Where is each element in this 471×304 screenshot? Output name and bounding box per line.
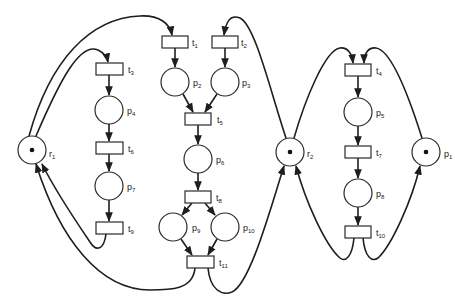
transition-t11[interactable]: t11 xyxy=(187,256,228,269)
arc-t8-p9 xyxy=(182,203,192,215)
place-label-p6: p6 xyxy=(216,155,225,166)
transition-label-t3: t3 xyxy=(128,65,135,76)
place-r1[interactable]: r1 xyxy=(18,136,56,164)
arc-r1-t3 xyxy=(36,49,108,136)
arc-p2-t5 xyxy=(183,94,193,112)
transition-label-t7: t7 xyxy=(376,148,383,159)
place-r2[interactable]: r2 xyxy=(276,138,314,166)
transition-t6[interactable]: t6 xyxy=(96,142,135,155)
token-icon xyxy=(30,148,35,153)
place-p5[interactable]: p5 xyxy=(344,98,385,126)
transition-label-t2: t2 xyxy=(241,38,248,49)
place-label-p3: p3 xyxy=(242,78,251,89)
place-label-p10: p10 xyxy=(243,223,255,234)
transition-t8[interactable]: t8 xyxy=(185,191,223,204)
transition-t7[interactable]: t7 xyxy=(345,146,383,159)
transition-label-t1: t1 xyxy=(192,38,199,49)
arc-t8-p10 xyxy=(205,203,215,215)
place-label-p9: p9 xyxy=(192,223,201,234)
place-p2[interactable]: p2 xyxy=(161,68,202,96)
transition-t3[interactable]: t3 xyxy=(96,63,135,76)
place-label-p4: p4 xyxy=(127,106,136,117)
token-icon xyxy=(424,150,429,155)
arc-p3-t5 xyxy=(205,94,217,112)
place-label-r2: r2 xyxy=(307,149,314,160)
arc-r2-t4 xyxy=(294,48,353,138)
transition-label-t11: t11 xyxy=(219,258,228,269)
place-p4[interactable]: p4 xyxy=(95,96,136,124)
arc-p10-t11 xyxy=(208,239,217,255)
transition-label-t6: t6 xyxy=(128,144,135,155)
place-label-p7: p7 xyxy=(127,182,136,193)
place-p6[interactable]: p6 xyxy=(184,145,225,173)
transition-label-t10: t10 xyxy=(376,228,386,239)
place-label-p2: p2 xyxy=(193,78,202,89)
transition-t10[interactable]: t10 xyxy=(345,226,386,239)
arc-p9-t11 xyxy=(181,239,192,255)
place-label-r1: r1 xyxy=(49,149,56,160)
token-icon xyxy=(288,150,293,155)
transition-t9[interactable]: t9 xyxy=(96,222,135,235)
transition-label-t9: t9 xyxy=(128,224,135,235)
transition-t5[interactable]: t5 xyxy=(185,113,224,126)
transition-t2[interactable]: t2 xyxy=(212,36,248,49)
place-label-p1: p1 xyxy=(444,149,453,160)
transition-label-t5: t5 xyxy=(217,115,224,126)
transition-t1[interactable]: t1 xyxy=(162,36,199,49)
place-p9[interactable]: p9 xyxy=(159,213,201,241)
place-label-p5: p5 xyxy=(376,108,385,119)
petri-net-diagram: r1 r2 p1 p2 p3 p4 p5 p6 xyxy=(0,0,471,304)
place-label-p8: p8 xyxy=(376,189,385,200)
place-p3[interactable]: p3 xyxy=(211,68,251,96)
transition-label-t4: t4 xyxy=(376,66,383,77)
transition-label-t8: t8 xyxy=(216,193,223,204)
place-p10[interactable]: p10 xyxy=(211,213,255,241)
place-p8[interactable]: p8 xyxy=(344,179,385,207)
transition-t4[interactable]: t4 xyxy=(345,64,383,77)
places: r1 r2 p1 p2 p3 p4 p5 p6 xyxy=(18,68,453,241)
arc-p1-t4 xyxy=(364,48,422,138)
place-p7[interactable]: p7 xyxy=(95,172,136,200)
arc-t10-r2 xyxy=(296,166,354,259)
transitions: t1 t2 t3 t4 t5 t6 t7 t8 xyxy=(96,36,386,269)
place-p1[interactable]: p1 xyxy=(412,138,453,166)
arc-t10-p1 xyxy=(363,166,420,259)
